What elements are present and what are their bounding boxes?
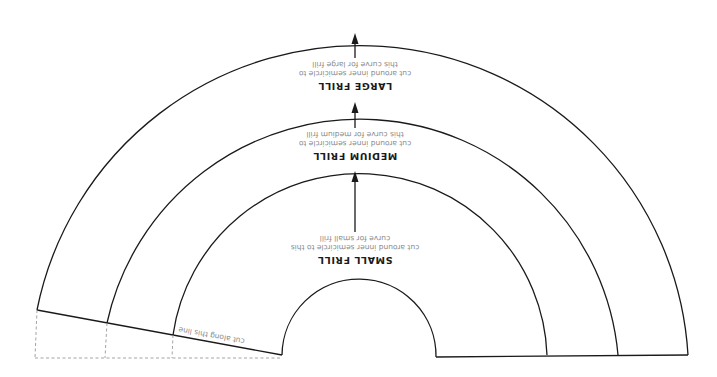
small-frill-hint-1: cut around inner semicircle to this xyxy=(280,243,430,252)
bottom-edge-right xyxy=(436,355,688,357)
medium-frill-title: MEDIUM FRILL xyxy=(280,151,430,162)
large-frill-hint-2: this curve for large frill xyxy=(280,60,430,69)
arrow-icon xyxy=(352,102,359,128)
slanted-edge-left xyxy=(37,310,282,355)
large-frill-curve xyxy=(37,46,688,355)
medium-frill-hint-2: this curve for medium frill xyxy=(280,130,430,139)
large-frill-title: LARGE FRILL xyxy=(280,81,430,92)
frill-template-diagram xyxy=(0,0,717,377)
small-frill-instruction: SMALL FRILL cut around inner semicircle … xyxy=(280,234,430,266)
inner-semicircle xyxy=(282,279,436,357)
medium-frill-instruction: MEDIUM FRILL cut around inner semicircle… xyxy=(280,130,430,162)
dashed-guides xyxy=(35,310,282,358)
small-frill-hint-2: curve for small frill xyxy=(280,234,430,243)
arrow-icon xyxy=(352,171,359,232)
large-frill-hint-1: cut around inner semicircle to xyxy=(280,69,430,78)
medium-frill-hint-1: cut around inner semicircle to xyxy=(280,139,430,148)
small-frill-title: SMALL FRILL xyxy=(280,255,430,266)
large-frill-instruction: LARGE FRILL cut around inner semicircle … xyxy=(280,60,430,92)
